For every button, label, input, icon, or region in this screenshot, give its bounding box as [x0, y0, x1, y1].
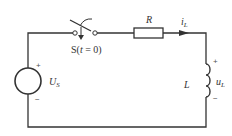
resistor-label: R: [145, 14, 152, 25]
inductor-label: L: [183, 79, 190, 90]
inductor-voltage-label: uL: [216, 76, 225, 89]
inductor-minus: −: [213, 94, 218, 103]
wire-right-bottom: [28, 94, 206, 127]
inductor-plus: +: [213, 57, 218, 66]
inductor: [206, 64, 210, 97]
wire-resistor-right: [163, 33, 206, 64]
wire-left-top: [28, 33, 73, 68]
current-label: iL: [181, 16, 188, 29]
source-label: US: [49, 76, 60, 89]
switch-label: S(t = 0): [71, 44, 102, 56]
voltage-source: [15, 68, 41, 94]
source-plus: +: [36, 61, 41, 70]
circuit-diagram: + − US S(t = 0) R iL + − L uL: [0, 0, 232, 136]
switch: [70, 19, 97, 40]
source-minus: −: [35, 95, 40, 104]
current-arrow-icon: [179, 30, 189, 36]
resistor: [134, 28, 163, 38]
